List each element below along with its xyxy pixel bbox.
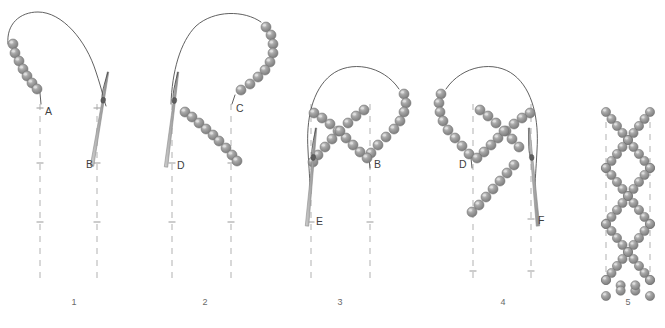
bead-body — [514, 142, 524, 152]
bead — [645, 291, 654, 300]
bead-highlight — [619, 256, 622, 258]
bead — [499, 126, 509, 136]
bead-highlight — [263, 24, 266, 27]
bead — [467, 207, 477, 217]
bead-highlight — [319, 115, 322, 118]
point-label-C: C — [236, 102, 244, 114]
bead-highlight — [469, 209, 472, 212]
beading-diagram: AB1CD2BE3DF45 — [0, 0, 665, 328]
bead-highlight — [614, 263, 617, 265]
bead-highlight — [511, 162, 514, 165]
bead-highlight — [315, 152, 318, 155]
bead-highlight — [238, 87, 241, 90]
bead-body — [499, 126, 509, 136]
bead-highlight — [619, 200, 622, 202]
bead-highlight — [608, 228, 611, 230]
bead-highlight — [603, 221, 606, 223]
bead-highlight — [636, 207, 639, 209]
bead — [401, 98, 411, 108]
bead-body — [266, 30, 276, 40]
bead-body — [495, 176, 505, 186]
bead-highlight — [511, 121, 514, 124]
bead-highlight — [182, 109, 185, 112]
bead-highlight — [636, 235, 639, 237]
bead-highlight — [353, 113, 356, 116]
diagram-canvas: AB1CD2BE3DF45 — [0, 0, 665, 328]
bead-highlight — [619, 144, 622, 146]
bead-body — [488, 184, 498, 194]
bead — [8, 39, 18, 49]
bead-highlight — [255, 74, 258, 77]
bead-body — [351, 111, 361, 121]
bead-highlight — [476, 202, 479, 205]
bead-highlight — [485, 113, 488, 116]
bead-highlight — [516, 144, 519, 147]
bead-body — [645, 291, 654, 300]
bead — [434, 98, 444, 108]
bead-highlight — [196, 120, 199, 123]
bead-body — [509, 160, 519, 170]
bead-body — [450, 133, 460, 143]
bead-body — [438, 116, 448, 126]
bead-body — [320, 142, 330, 152]
point-label-F: F — [538, 214, 544, 226]
point-label-E: E — [316, 215, 323, 227]
bead-highlight — [647, 109, 650, 111]
bead — [438, 116, 448, 126]
bead-highlight — [630, 186, 633, 188]
bead-highlight — [608, 158, 611, 160]
bead-body — [507, 134, 517, 144]
bead-body — [481, 192, 491, 202]
bead-highlight — [519, 115, 522, 118]
bead-highlight — [636, 151, 639, 153]
panel-number-5: 5 — [625, 297, 630, 307]
bead-highlight — [343, 135, 346, 138]
bead-highlight — [268, 32, 271, 35]
panel-2: CD2 — [164, 13, 278, 307]
bead-body — [601, 275, 610, 284]
bead-highlight — [311, 110, 314, 113]
lattice-cross — [601, 219, 654, 284]
bead-highlight — [391, 126, 394, 129]
bead-highlight — [10, 41, 13, 44]
bead — [399, 89, 409, 99]
bead-body — [616, 286, 625, 295]
bead-highlight — [608, 172, 611, 174]
bead-highlight — [229, 152, 232, 155]
lattice-cross — [601, 163, 654, 228]
bead-highlight — [630, 130, 633, 132]
bead-body — [268, 39, 278, 49]
bead — [373, 140, 383, 150]
bead-highlight — [636, 263, 639, 265]
bead-body — [601, 291, 610, 300]
bead — [268, 39, 278, 49]
bead-highlight — [647, 165, 650, 167]
bead-highlight — [619, 242, 622, 244]
bead — [631, 281, 640, 290]
bead-highlight — [608, 270, 611, 272]
needle-point — [529, 154, 534, 160]
bead-highlight — [262, 67, 265, 70]
bead-body — [435, 107, 445, 117]
bead-highlight — [270, 41, 273, 44]
bead-highlight — [350, 142, 353, 145]
bead-highlight — [24, 73, 27, 76]
bead-highlight — [361, 107, 364, 110]
bead-highlight — [603, 293, 606, 295]
bead — [362, 153, 372, 163]
bead-highlight — [647, 221, 650, 223]
bead — [245, 79, 255, 89]
bead-body — [236, 85, 246, 95]
bead — [266, 30, 276, 40]
bead — [32, 84, 42, 94]
bead-highlight — [625, 137, 628, 139]
bead-highlight — [641, 172, 644, 174]
bead-highlight — [247, 81, 250, 84]
bead-highlight — [477, 107, 480, 110]
panel-5: 5 — [601, 107, 654, 307]
bead-highlight — [625, 249, 628, 251]
bead-highlight — [466, 151, 469, 154]
bead-highlight — [452, 135, 455, 138]
bead-highlight — [474, 155, 477, 158]
bead-highlight — [16, 58, 19, 61]
